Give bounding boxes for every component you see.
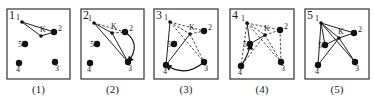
node-label-4: 4: [16, 65, 20, 74]
edge-solid-4-K: [166, 34, 190, 65]
node-5: [322, 42, 328, 48]
node-label-3: 3: [204, 64, 208, 73]
node-label-K: K: [338, 27, 344, 36]
node-label-K: K: [264, 24, 270, 33]
node-label-4: 4: [238, 68, 242, 77]
edge-dashed-2-3: [280, 30, 281, 62]
curved-arrow-icon: [125, 32, 134, 62]
edge-dashed-1-2: [94, 23, 125, 32]
node-5: [171, 41, 177, 47]
node-1: [245, 21, 249, 25]
curved-arrow-icon: [166, 62, 204, 71]
node-label-5: 5: [90, 40, 94, 49]
node-label-3: 3: [355, 64, 359, 73]
panel-caption: (1): [32, 83, 45, 96]
panel-1: 112345K(1): [7, 8, 70, 96]
edge-dashed-1-2: [170, 22, 204, 31]
diagram-figure: 112345K(1)212345K(2)312345K(3)412345K(4)…: [0, 0, 374, 105]
edge-dashed-K-3: [265, 35, 281, 62]
node-1: [168, 20, 172, 24]
panel-3: 312345K(3): [154, 8, 218, 96]
node-label-5: 5: [318, 41, 322, 50]
node-label-K: K: [111, 22, 117, 31]
node-2: [351, 30, 357, 36]
node-K: [188, 32, 192, 36]
panel-5: 512345K(5): [305, 8, 369, 96]
node-label-2: 2: [58, 24, 62, 33]
node-label-4: 4: [163, 67, 167, 76]
edge-solid-1-2: [22, 22, 54, 32]
node-5: [94, 41, 100, 47]
edge-solid-K-3: [339, 38, 355, 62]
node-1: [20, 20, 24, 24]
edge-solid-K-3: [112, 33, 128, 62]
node-1: [319, 21, 323, 25]
node-K: [39, 34, 43, 38]
node-label-2: 2: [358, 25, 362, 34]
node-K: [263, 33, 267, 37]
panel-number: 1: [9, 8, 15, 22]
node-label-K: K: [189, 23, 195, 32]
node-label-2: 2: [284, 22, 288, 31]
node-label-K: K: [40, 25, 46, 34]
node-5: [22, 41, 28, 47]
panel-caption: (5): [331, 83, 344, 96]
node-label-2: 2: [129, 24, 133, 33]
panel-caption: (4): [256, 83, 269, 96]
node-1: [92, 21, 96, 25]
edge-dashed-1-K: [170, 22, 190, 34]
panel-caption: (3): [180, 83, 193, 96]
panel-number: 4: [232, 8, 238, 22]
node-label-3: 3: [128, 64, 132, 73]
node-label-5: 5: [167, 40, 171, 49]
node-K: [110, 31, 114, 35]
edge-solid-1-K: [94, 23, 112, 33]
node-label-5: 5: [18, 40, 22, 49]
node-label-1: 1: [315, 14, 319, 23]
node-2: [122, 29, 128, 35]
node-2: [277, 27, 283, 33]
panel-number: 5: [307, 8, 313, 22]
edge-dashed-K-3: [190, 34, 204, 62]
node-label-1: 1: [164, 13, 168, 22]
node-label-3: 3: [281, 64, 285, 73]
node-label-1: 1: [88, 14, 92, 23]
node-2: [51, 29, 57, 35]
node-2: [201, 28, 207, 34]
node-K: [337, 36, 341, 40]
node-label-5: 5: [243, 40, 247, 49]
node-label-1: 1: [16, 13, 20, 22]
node-label-4: 4: [315, 67, 319, 76]
edge-solid-1-K: [22, 22, 41, 36]
panel-number: 3: [156, 8, 162, 22]
node-label-2: 2: [208, 23, 212, 32]
diagram-canvas: 112345K(1)212345K(2)312345K(3)412345K(4)…: [0, 0, 374, 105]
panel-caption: (2): [106, 83, 119, 96]
panel-4: 412345K(4): [230, 8, 294, 96]
panel-2: 212345K(2): [81, 8, 144, 96]
node-label-1: 1: [241, 14, 245, 23]
node-label-4: 4: [87, 65, 91, 74]
node-5: [247, 41, 253, 47]
node-label-3: 3: [55, 64, 59, 73]
